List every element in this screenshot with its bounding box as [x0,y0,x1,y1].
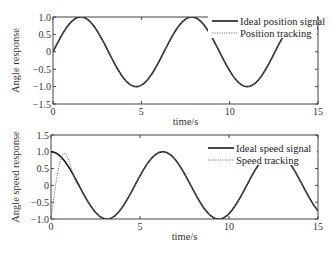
x-tick-label: 0 [49,221,54,232]
y-tick-label: −1.0 [31,214,49,225]
y-tick-label: −1.5 [33,99,51,110]
y-tick-label: 0.5 [37,163,50,174]
legend-entry: Ideal position signal [240,16,325,27]
x-tick-label: 15 [313,106,323,117]
x-axis-label: time/s [173,116,199,127]
x-axis-label: time/s [172,231,198,242]
legend-entry: Speed tracking [236,155,299,166]
legend: Ideal speed signalSpeed tracking [204,141,317,166]
speed-plot: 0510151.51.00.50−0.5−1.0Ideal speed sign… [10,130,323,243]
y-axis-label: Angle response [10,28,21,93]
x-tick-label: 10 [224,221,234,232]
y-tick-label: −0.5 [31,197,49,208]
y-tick-label: 0 [46,46,51,57]
y-tick-label: 1.0 [39,12,52,23]
y-tick-label: 0 [44,180,49,191]
x-tick-label: 5 [139,106,144,117]
y-axis-label: Angle speed response [10,131,21,223]
y-tick-label: −0.5 [33,64,51,75]
x-tick-label: 5 [138,221,143,232]
legend-entry: Ideal speed signal [236,143,311,154]
legend: Ideal position signalPosition tracking [208,14,325,39]
y-tick-label: 1.5 [37,130,50,141]
x-tick-label: 10 [225,106,235,117]
legend-entry: Position tracking [240,28,312,39]
chart-canvas: 0510151.00.50−0.5−1.0−1.5Ideal position … [0,0,331,255]
y-tick-label: 1.0 [37,146,50,157]
y-tick-label: −1.0 [33,81,51,92]
y-tick-label: 0.5 [39,29,52,40]
x-tick-label: 15 [313,221,323,232]
x-tick-label: 0 [51,106,56,117]
position-plot: 0510151.00.50−0.5−1.0−1.5Ideal position … [10,12,325,128]
